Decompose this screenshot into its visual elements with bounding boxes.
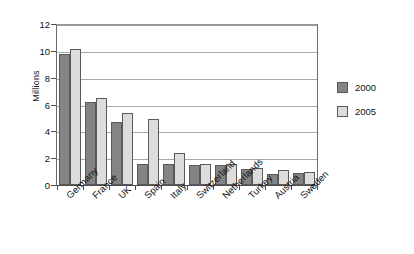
x-axis-tick bbox=[161, 186, 162, 190]
x-axis-tick bbox=[239, 186, 240, 190]
bar-germany-2000 bbox=[59, 54, 70, 185]
legend-item-2000: 2000 bbox=[337, 78, 376, 96]
x-axis-tick bbox=[317, 186, 318, 190]
x-axis-label-uk: UK bbox=[116, 184, 133, 201]
bar-uk-2005 bbox=[122, 113, 133, 185]
y-axis-tick bbox=[51, 131, 56, 132]
y-axis-tick bbox=[51, 24, 56, 25]
x-axis-tick bbox=[291, 186, 292, 190]
bar-chart: Millions 024681012 GermanyFranceUKSpainI… bbox=[0, 0, 414, 254]
y-axis-tick bbox=[51, 158, 56, 159]
x-axis-tick bbox=[57, 186, 58, 190]
y-axis-tick-label: 10 bbox=[20, 45, 50, 56]
bar-germany-2005 bbox=[70, 49, 81, 185]
x-axis-tick bbox=[135, 186, 136, 190]
legend-swatch-2000 bbox=[337, 82, 348, 93]
y-axis-tick bbox=[51, 51, 56, 52]
legend-item-2005: 2005 bbox=[337, 102, 376, 120]
bar-switzerland-2000 bbox=[189, 165, 200, 185]
legend-label-2000: 2000 bbox=[355, 82, 376, 93]
bar-spain-2005 bbox=[148, 119, 159, 185]
x-axis-tick bbox=[265, 186, 266, 190]
bars-layer bbox=[57, 24, 317, 185]
legend-swatch-2005 bbox=[337, 106, 348, 117]
y-axis-labels: 024681012 bbox=[14, 0, 50, 254]
y-axis-tick-label: 6 bbox=[20, 99, 50, 110]
y-axis-tick-label: 8 bbox=[20, 72, 50, 83]
legend: 2000 2005 bbox=[337, 78, 376, 126]
y-axis-tick bbox=[51, 185, 56, 186]
bar-spain-2000 bbox=[137, 164, 148, 185]
y-axis-tick-label: 0 bbox=[20, 180, 50, 191]
y-axis-tick-label: 4 bbox=[20, 126, 50, 137]
y-axis-tick bbox=[51, 105, 56, 106]
x-axis-tick bbox=[109, 186, 110, 190]
x-axis-tick bbox=[187, 186, 188, 190]
y-axis-tick-label: 12 bbox=[20, 19, 50, 30]
y-axis-tick bbox=[51, 78, 56, 79]
legend-label-2005: 2005 bbox=[355, 106, 376, 117]
x-axis-tick bbox=[213, 186, 214, 190]
y-axis-tick-label: 2 bbox=[20, 153, 50, 164]
x-axis-tick bbox=[83, 186, 84, 190]
